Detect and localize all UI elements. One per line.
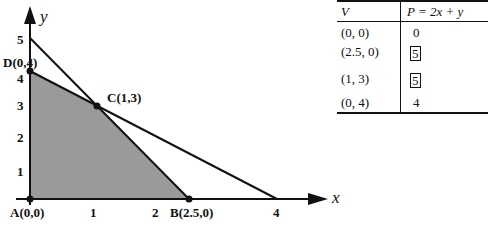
table-row-2-value-boxed: 5 xyxy=(410,46,421,61)
point-a-label: A(0,0) xyxy=(10,206,44,219)
table-row-1-vertex: (0, 0) xyxy=(341,26,369,39)
x-tick-2: 2 xyxy=(152,206,159,219)
table-column-divider xyxy=(400,2,401,112)
x-axis-arrow-icon xyxy=(308,193,328,205)
table-row-3-vertex: (1, 3) xyxy=(341,72,369,85)
table-row-4-value: 4 xyxy=(413,96,420,109)
point-c-label: C(1,3) xyxy=(107,91,141,104)
point-b-label: B(2.5,0) xyxy=(170,206,213,219)
x-axis-label: x xyxy=(332,189,340,206)
point-b-marker xyxy=(186,196,193,203)
vertex-evaluation-table: V P = 2x + y (0, 0) 0 (2.5, 0) 5 (1, 3) … xyxy=(337,0,488,114)
table-row-1-value: 0 xyxy=(413,26,420,39)
point-a-marker xyxy=(27,196,34,203)
y-axis-label: y xyxy=(40,8,48,25)
table-bottom-rule xyxy=(337,112,488,114)
table-row-3-value-boxed: 5 xyxy=(410,73,421,88)
point-c-marker xyxy=(94,103,101,110)
table-header-rule xyxy=(337,21,488,22)
y-tick-2: 2 xyxy=(17,131,24,144)
y-tick-3: 3 xyxy=(17,99,24,112)
y-tick-5: 5 xyxy=(17,33,24,46)
x-tick-4: 4 xyxy=(273,206,280,219)
table-row-2-vertex: (2.5, 0) xyxy=(341,45,379,58)
table-row-4-vertex: (0, 4) xyxy=(341,96,369,109)
table-header-p: P = 2x + y xyxy=(407,5,463,18)
point-d-label: D(0,4) xyxy=(3,56,37,69)
x-tick-1: 1 xyxy=(90,206,97,219)
y-tick-4: 4 xyxy=(17,72,24,85)
y-axis-arrow-icon xyxy=(24,6,36,24)
table-top-rule xyxy=(337,0,488,2)
y-tick-1: 1 xyxy=(17,165,24,178)
table-header-v: V xyxy=(341,5,349,18)
